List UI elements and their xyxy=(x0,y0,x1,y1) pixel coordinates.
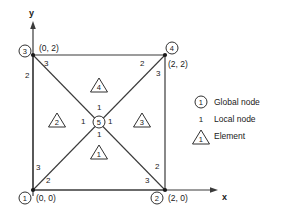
coord-label-node-1: (0, 0) xyxy=(36,194,56,203)
legend-label-global-node: Global node xyxy=(214,98,260,107)
local-node-4-diagonal: 2 xyxy=(140,60,144,68)
local-node-1-bottom-edge: 2 xyxy=(46,177,50,185)
local-node-2-bottom-edge: 3 xyxy=(145,177,149,185)
local-node-3-diagonal: 3 xyxy=(44,60,48,68)
legend-label-element: Element xyxy=(214,132,245,141)
coord-label-node-2: (2, 0) xyxy=(168,194,188,203)
legend-local-node-number: 1 xyxy=(199,116,203,124)
local-node-1-left-edge: 3 xyxy=(36,164,40,172)
node-dot-3 xyxy=(31,53,35,57)
legend-label-local-node: Local node xyxy=(214,115,256,124)
element-number-1: 1 xyxy=(97,151,101,159)
local-node-5-above: 1 xyxy=(97,104,101,112)
legend-element-number: 1 xyxy=(199,136,203,144)
global-node-number-3: 3 xyxy=(23,48,27,56)
global-node-number-2: 2 xyxy=(155,195,159,203)
element-number-2: 2 xyxy=(55,119,59,127)
local-node-5-right: 1 xyxy=(108,118,112,126)
node-dot-1 xyxy=(31,188,35,192)
global-node-number-5: 5 xyxy=(97,119,101,127)
coord-label-node-3: (0, 2) xyxy=(39,44,59,53)
node-dot-2 xyxy=(163,188,167,192)
element-number-4: 4 xyxy=(97,84,101,92)
y-axis-label: y xyxy=(29,9,34,18)
coord-label-node-4: (2, 2) xyxy=(168,60,188,69)
x-axis-label: x xyxy=(222,193,227,202)
local-node-2-right-edge: 2 xyxy=(155,163,159,171)
x-axis-arrowhead xyxy=(210,187,218,193)
legend-global-node-number: 1 xyxy=(199,99,203,107)
global-node-number-4: 4 xyxy=(170,45,174,53)
y-axis-arrowhead xyxy=(30,21,36,29)
local-node-5-below: 1 xyxy=(97,131,101,139)
local-node-5-left: 1 xyxy=(81,118,85,126)
element-number-3: 3 xyxy=(140,119,144,127)
local-node-4-right-edge: 3 xyxy=(156,70,160,78)
figure-canvas: y x 1 2 3 4 5 (0, 0) (2, 0) (0, 2) (2, 2… xyxy=(0,0,289,216)
global-node-number-1: 1 xyxy=(23,195,27,203)
node-dot-4 xyxy=(163,53,167,57)
local-node-3-left-edge: 2 xyxy=(25,72,29,80)
